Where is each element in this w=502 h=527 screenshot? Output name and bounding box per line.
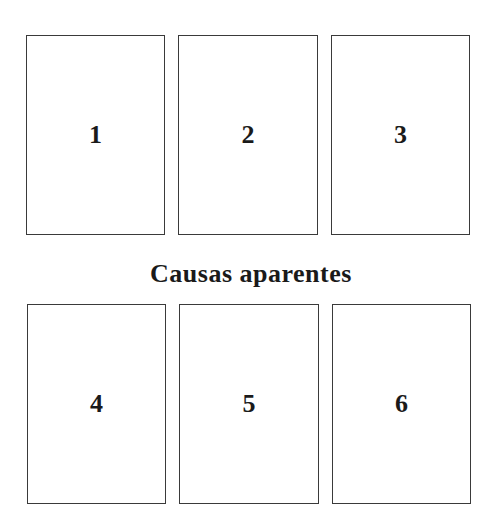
panel-number: 4 <box>90 389 103 419</box>
panel-number: 6 <box>395 389 408 419</box>
panel-1: 1 <box>26 35 165 235</box>
panel-6: 6 <box>332 304 471 504</box>
panel-number: 2 <box>242 120 255 150</box>
panel-4: 4 <box>27 304 166 504</box>
panel-2: 2 <box>178 35 318 235</box>
panel-number: 1 <box>89 120 102 150</box>
panel-5: 5 <box>179 304 319 504</box>
panel-3: 3 <box>331 35 470 235</box>
panel-number: 5 <box>243 389 256 419</box>
diagram-title: Causas aparentes <box>0 259 502 289</box>
panel-number: 3 <box>394 120 407 150</box>
